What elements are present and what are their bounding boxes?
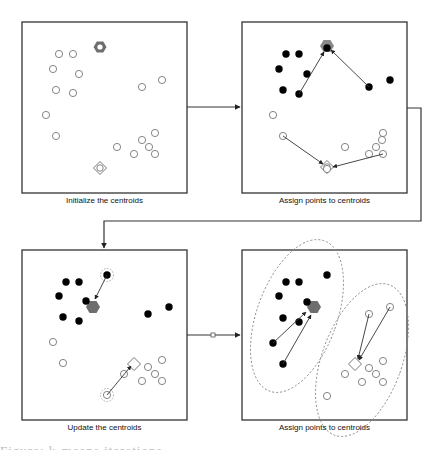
data-point-open [158,377,165,384]
caption-assign-2: Assign points to centroids [242,423,407,432]
data-point-filled [279,314,286,321]
data-point-open [151,370,158,377]
caption-update: Update the centroids [22,423,187,432]
data-point-open [144,363,151,370]
data-point-open [69,50,76,57]
data-point-filled [62,278,69,285]
data-point-open [138,83,145,90]
data-point-open [158,76,165,83]
data-point-open [55,50,62,57]
data-point-filled [165,303,172,310]
data-point-filled [144,310,151,317]
data-point-open [69,89,76,96]
data-point-filled [279,86,286,93]
data-point-open [151,150,158,157]
data-point-open [49,338,56,345]
data-point-filled [75,317,82,324]
panels [22,22,427,449]
data-point-open [372,143,379,150]
data-point-filled [295,318,302,325]
data-point-open [52,86,59,93]
data-point-filled [323,271,330,278]
panel-update [22,250,187,420]
connector-square-marker [211,333,215,337]
data-point-filled [295,50,302,57]
data-point-open [341,143,348,150]
data-point-open [372,370,379,377]
panel-assign2 [232,227,427,449]
data-point-open [52,132,59,139]
kmeans-diagram: Initialize the centroids Assign points t… [0,0,440,450]
data-point-filled [323,44,330,51]
data-point-open [138,136,145,143]
data-point-filled [386,76,393,83]
data-point-filled [295,278,302,285]
data-point-filled [282,50,289,57]
data-point-open [42,111,49,118]
data-point-open [378,136,385,143]
data-point-filled [275,292,282,299]
diagram-canvas [0,0,440,450]
data-point-open [113,143,120,150]
data-point-filled [303,298,310,305]
data-point-filled [55,292,62,299]
data-point-open [269,111,276,118]
centroid-hexagon-hole [97,44,102,49]
centroid-diamond-inner [97,165,103,171]
data-point-open [130,150,137,157]
panel-init [22,22,187,193]
panel-assign1 [242,22,407,193]
data-point-open [358,378,365,385]
data-point-open [75,70,82,77]
data-point-filled [282,278,289,285]
caption-initialize: Initialize the centroids [22,196,187,205]
data-point-open [323,165,330,172]
data-point-open [151,129,158,136]
data-point-open [365,364,372,371]
data-point-open [379,357,386,364]
data-point-filled [59,313,66,320]
caption-assign-1: Assign points to centroids [242,196,407,205]
clipped-footer-text: Figure: k-means iterations [0,444,440,450]
data-point-open [341,370,348,377]
data-point-filled [275,65,282,72]
data-point-open [158,356,165,363]
data-point-open [145,143,152,150]
data-point-open [59,359,66,366]
data-point-open [138,377,145,384]
data-point-open [379,129,386,136]
data-point-filled [82,297,89,304]
data-point-open [323,392,330,399]
data-point-open [49,65,56,72]
data-point-open [379,378,386,385]
data-point-filled [75,278,82,285]
